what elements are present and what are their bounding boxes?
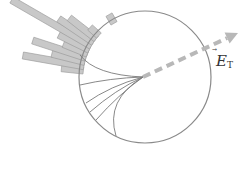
dashed-vector-arrow xyxy=(143,38,227,77)
trajectory-curve xyxy=(80,55,143,77)
vector-label-main: E xyxy=(216,52,227,70)
histogram-bars xyxy=(10,0,117,74)
trajectory-curves xyxy=(80,55,143,136)
vector-label: E ⃗ T xyxy=(216,52,233,70)
circular-diagram xyxy=(0,0,250,172)
vector-label-subscript: T xyxy=(227,60,233,70)
